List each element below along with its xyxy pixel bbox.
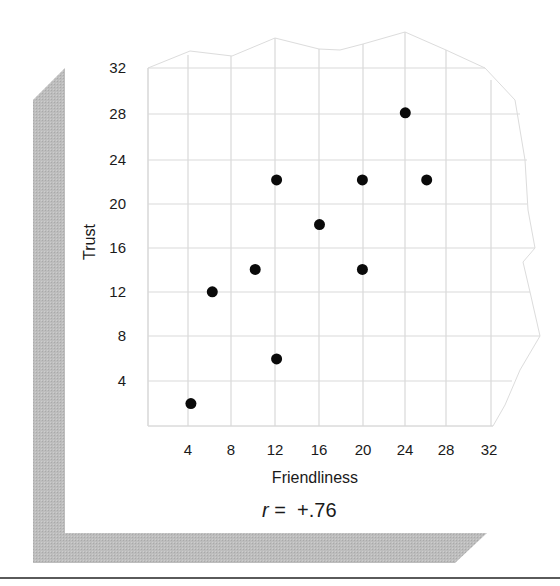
x-axis-ticks: 4 8 12 16 20 24 28 32 [184, 441, 498, 458]
data-point [207, 286, 218, 297]
x-tick: 28 [438, 441, 455, 458]
data-point [421, 174, 432, 185]
data-point [271, 353, 282, 364]
x-tick: 24 [397, 441, 414, 458]
x-tick: 8 [227, 441, 235, 458]
y-tick: 20 [109, 195, 126, 212]
bottom-rule [0, 577, 560, 579]
y-tick: 24 [109, 151, 126, 168]
y-tick: 12 [109, 283, 126, 300]
data-point [314, 219, 325, 230]
correlation-value: = +.76 [269, 499, 337, 521]
scatter-figure: 32 28 24 20 16 12 8 4 4 8 12 16 20 24 28… [0, 0, 560, 586]
x-tick: 20 [355, 441, 372, 458]
data-point [357, 174, 368, 185]
y-axis-ticks: 32 28 24 20 16 12 8 4 [109, 59, 126, 389]
y-tick: 32 [109, 59, 126, 76]
data-point [357, 264, 368, 275]
y-tick: 28 [109, 105, 126, 122]
data-point [400, 107, 411, 118]
y-tick: 4 [118, 372, 126, 389]
y-tick: 16 [109, 239, 126, 256]
x-tick: 4 [184, 441, 192, 458]
x-tick: 12 [267, 441, 284, 458]
x-tick: 32 [481, 441, 498, 458]
y-axis-label: Trust [81, 224, 98, 260]
x-tick: 16 [311, 441, 328, 458]
data-point [185, 398, 196, 409]
y-tick: 8 [118, 327, 126, 344]
correlation-annotation: r = +.76 [262, 499, 337, 521]
data-point [271, 174, 282, 185]
x-axis-label: Friendliness [272, 469, 358, 486]
plot-paper-outline [148, 32, 540, 426]
data-point [250, 264, 261, 275]
